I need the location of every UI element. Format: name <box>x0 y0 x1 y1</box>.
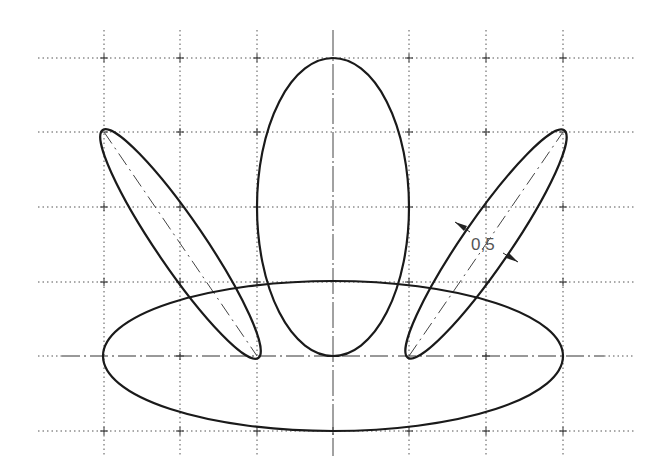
dimension-arrow-left-icon <box>455 222 467 231</box>
technical-drawing: 0,5 <box>0 0 662 468</box>
grid <box>38 30 634 456</box>
dimension-label: 0,5 <box>471 235 495 254</box>
